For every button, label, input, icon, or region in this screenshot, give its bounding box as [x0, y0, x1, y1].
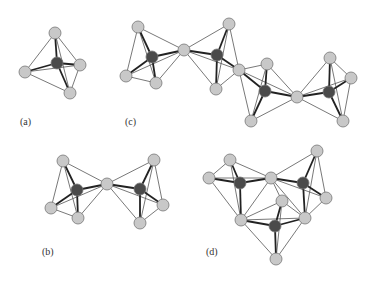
light-atom	[261, 58, 273, 70]
light-atom	[324, 52, 336, 64]
bond-thin	[241, 201, 282, 220]
light-atom	[203, 172, 215, 184]
light-atom	[345, 72, 357, 84]
bond-thin	[25, 33, 55, 72]
light-atom	[132, 21, 144, 33]
panel-label-a: (a)	[20, 116, 31, 127]
light-atom	[337, 115, 349, 127]
dark-atom	[211, 49, 223, 61]
light-atom	[320, 192, 332, 204]
light-atom	[150, 77, 162, 89]
dark-atom	[259, 85, 271, 97]
light-atom	[311, 145, 323, 157]
bond-thin	[154, 160, 163, 205]
light-atom	[157, 199, 169, 211]
light-atom	[74, 59, 86, 71]
bond-thin	[107, 160, 154, 184]
bond-thin	[63, 161, 107, 184]
bond-thin	[317, 151, 326, 198]
dark-atom	[323, 86, 335, 98]
light-atom	[19, 66, 31, 78]
bond-thin	[271, 151, 317, 178]
light-atom	[210, 83, 222, 95]
light-atom	[178, 44, 190, 56]
light-atom	[49, 27, 61, 39]
bond-thin	[184, 24, 229, 50]
light-atom	[120, 70, 132, 82]
light-atom	[235, 214, 247, 226]
light-atom	[223, 18, 235, 30]
dark-atom	[134, 183, 146, 195]
bond-thin	[297, 97, 343, 121]
dark-atom	[71, 184, 83, 196]
light-atom	[45, 202, 57, 214]
light-atom	[101, 178, 113, 190]
dark-atom	[146, 51, 158, 63]
dark-atom	[297, 177, 309, 189]
bond-thin	[25, 72, 70, 93]
light-atom	[233, 64, 245, 76]
light-atom	[265, 172, 277, 184]
panel-label-d: (d)	[206, 246, 218, 257]
bond-thin	[343, 78, 351, 121]
light-atom	[72, 212, 84, 224]
cluster-diagram	[0, 0, 379, 288]
bond-thin	[229, 24, 239, 70]
panel-label-c: (c)	[125, 116, 136, 127]
light-atom	[57, 155, 69, 167]
light-atom	[64, 87, 76, 99]
light-atom	[291, 91, 303, 103]
dark-atom	[269, 220, 281, 232]
light-atom	[134, 217, 146, 229]
dark-atom	[234, 177, 246, 189]
bond-thin	[251, 97, 297, 121]
light-atom	[224, 154, 236, 166]
dark-atom	[51, 57, 63, 69]
panel-label-b: (b)	[42, 246, 54, 257]
light-atom	[270, 253, 282, 265]
light-atom	[299, 212, 311, 224]
light-atom	[148, 154, 160, 166]
bond-thin	[138, 27, 184, 50]
light-atom	[276, 195, 288, 207]
bonds-layer	[25, 24, 351, 259]
light-atom	[245, 115, 257, 127]
